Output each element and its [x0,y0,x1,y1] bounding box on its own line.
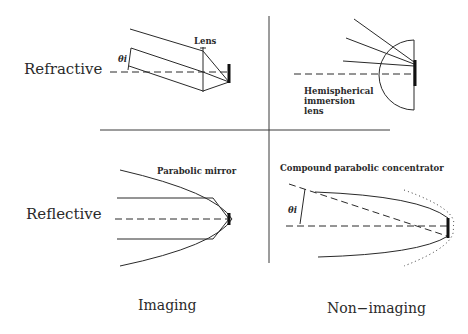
angle-theta-label: θi [288,205,297,215]
immersion-lens-annotation-3: lens [304,106,324,116]
panel-refractive-nonimaging: Hemispherical immersion lens [294,19,416,116]
angle-theta-label: θi [118,54,127,64]
column-label-nonimaging: Non−imaging [327,300,426,316]
lens-annotation: Lens [194,36,217,46]
panel-reflective-nonimaging: Compound parabolic concentrator θi [280,163,454,266]
parabolic-mirror-annotation: Parabolic mirror [157,166,237,176]
optical-concentrator-diagram: Refractive Reflective Imaging Non−imagin… [0,0,468,334]
row-label-reflective: Reflective [26,205,102,223]
column-label-imaging: Imaging [138,297,197,313]
parabolic-mirror-icon [120,170,232,266]
immersion-lens-annotation-2: immersion [304,96,355,106]
cpc-wall-icon [315,192,448,218]
panel-reflective-imaging: Parabolic mirror [115,166,237,266]
immersion-lens-annotation-1: Hemispherical [304,86,374,96]
hemispherical-lens-icon [379,40,414,110]
panel-refractive-imaging: θi Lens [110,29,229,92]
cpc-annotation: Compound parabolic concentrator [280,163,444,173]
row-label-refractive: Refractive [24,60,103,78]
